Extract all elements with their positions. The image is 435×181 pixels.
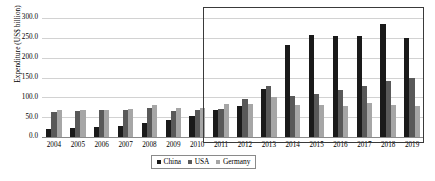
x-axis-tick-label: 2019 [400, 139, 424, 152]
bar-germany [415, 106, 420, 137]
chart-legend: ChinaUSAGermany [151, 155, 256, 169]
x-axis-tick-label: 2018 [376, 139, 400, 152]
bar-group [90, 18, 114, 137]
x-axis-tick-label: 2008 [138, 139, 162, 152]
x-axis-tick-label: 2007 [114, 139, 138, 152]
bar-germany [248, 104, 253, 137]
x-axis-tick-label: 2017 [352, 139, 376, 152]
legend-swatch-usa [188, 160, 192, 164]
x-axis-tick-labels: 2004200520062007200820092010201120122013… [42, 139, 424, 152]
bar-group [305, 18, 329, 137]
bar-germany [57, 110, 62, 137]
legend-label: China [164, 157, 182, 166]
y-axis-tick-label: 250.0 [0, 34, 38, 41]
bar-germany [343, 106, 348, 137]
x-axis-tick-label: 2010 [185, 139, 209, 152]
legend-swatch-germany [216, 160, 220, 164]
bar-group [329, 18, 353, 137]
bar-group [185, 18, 209, 137]
x-axis-tick-label: 2016 [329, 139, 353, 152]
bar-group [352, 18, 376, 137]
y-axis-tick-label: 0.0 [0, 133, 38, 140]
x-axis-tick-label: 2004 [42, 139, 66, 152]
bar-germany [152, 105, 157, 137]
bar-group [233, 18, 257, 137]
bar-group [376, 18, 400, 137]
bar-germany [391, 105, 396, 137]
bar-germany [80, 110, 85, 137]
bar-germany [128, 109, 133, 137]
legend-label: Germany [223, 157, 251, 166]
bar-germany [367, 103, 372, 137]
legend-swatch-china [157, 160, 161, 164]
y-axis-tick-label: 50.0 [0, 114, 38, 121]
gridline [42, 137, 424, 138]
legend-item: Germany [216, 157, 250, 166]
bar-group [114, 18, 138, 137]
bar-group [138, 18, 162, 137]
bar-group [161, 18, 185, 137]
bar-germany [271, 97, 276, 137]
y-axis-tick-label: 300.0 [0, 14, 38, 21]
y-axis-tick-label: 200.0 [0, 54, 38, 61]
bar-group [209, 18, 233, 137]
legend-label: USA [195, 157, 210, 166]
bar-group [66, 18, 90, 137]
x-axis-tick-label: 2015 [305, 139, 329, 152]
bar-groups [42, 18, 424, 137]
bar-group [257, 18, 281, 137]
bar-germany [295, 105, 300, 137]
x-axis-tick-label: 2014 [281, 139, 305, 152]
x-axis-tick-label: 2006 [90, 139, 114, 152]
bar-germany [104, 110, 109, 137]
legend-item: China [157, 157, 181, 166]
x-axis-tick-label: 2011 [209, 139, 233, 152]
bar-chart: Expenditure (US$ billion) 300.0250.0200.… [0, 0, 435, 181]
x-axis-tick-label: 2012 [233, 139, 257, 152]
bar-germany [319, 105, 324, 137]
bar-germany [224, 104, 229, 137]
y-axis-tick-label: 150.0 [0, 74, 38, 81]
bar-group [400, 18, 424, 137]
y-axis-tick-label: 100.0 [0, 94, 38, 101]
bar-group [281, 18, 305, 137]
x-axis-tick-label: 2005 [66, 139, 90, 152]
bar-germany [200, 108, 205, 137]
bar-germany [176, 108, 181, 137]
x-axis-tick-label: 2013 [257, 139, 281, 152]
x-axis-tick-label: 2009 [161, 139, 185, 152]
plot-area [42, 18, 424, 137]
legend-item: USA [188, 157, 209, 166]
bar-group [42, 18, 66, 137]
